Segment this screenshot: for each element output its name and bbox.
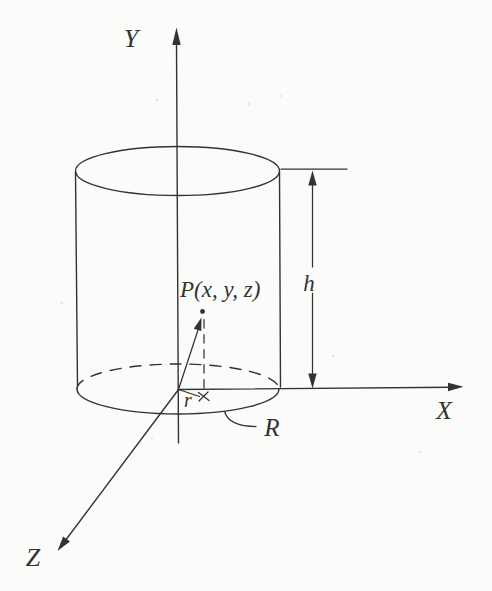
radius-label: R bbox=[263, 414, 279, 441]
height-label: h bbox=[303, 271, 315, 296]
point-p-label: P(x, y, z) bbox=[179, 277, 260, 302]
scan-speckles bbox=[61, 95, 422, 454]
y-axis-line bbox=[177, 42, 179, 443]
op-vector-arrowhead bbox=[194, 318, 202, 332]
y-axis-label: Y bbox=[124, 24, 141, 53]
x-axis-label: X bbox=[435, 396, 453, 425]
y-axis-arrowhead bbox=[172, 28, 180, 46]
radius-leader-curve bbox=[225, 412, 257, 427]
z-axis-line bbox=[67, 390, 179, 540]
op-vector-line bbox=[179, 330, 199, 390]
z-axis-arrowhead bbox=[58, 537, 70, 552]
h-dimension-arrowhead-top bbox=[308, 171, 316, 186]
h-dimension-arrowhead-bottom bbox=[308, 374, 316, 389]
cylinder-coordinate-diagram: Y X Z P(x, y, z) h r R bbox=[0, 0, 492, 591]
cylinder-left-side bbox=[76, 172, 78, 386]
radial-coord-label: r bbox=[184, 389, 192, 411]
cylinder-right-side bbox=[280, 172, 281, 387]
point-p-dot bbox=[200, 309, 205, 314]
x-axis-arrowhead bbox=[448, 383, 464, 391]
diagram-canvas: Y X Z P(x, y, z) h r R bbox=[0, 0, 492, 591]
x-axis-line bbox=[179, 387, 451, 389]
z-axis-label: Z bbox=[26, 543, 41, 572]
